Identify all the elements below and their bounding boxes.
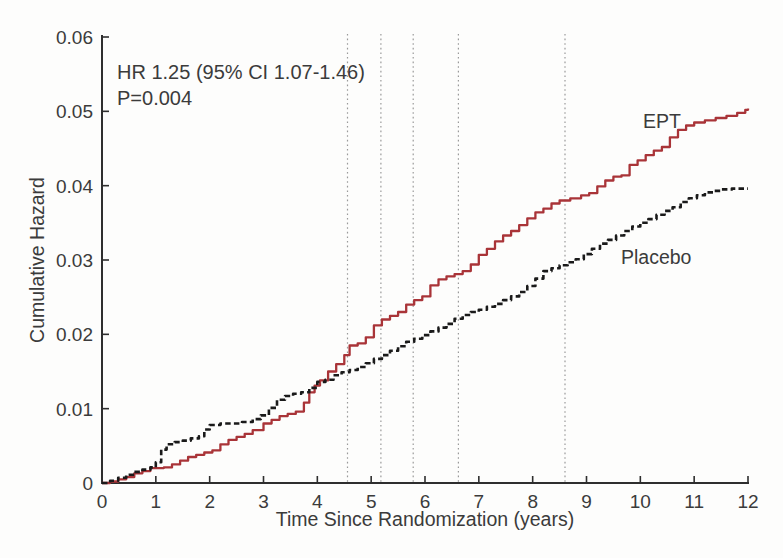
x-tick-label: 10	[630, 491, 651, 512]
y-tick-label: 0.05	[56, 101, 93, 122]
x-tick-label: 1	[151, 491, 162, 512]
placebo-curve	[102, 189, 748, 483]
annotation-p-value: P=0.004	[117, 87, 192, 109]
ept-curve	[102, 108, 748, 483]
annotation-hazard-ratio: HR 1.25 (95% CI 1.07-1.46)	[117, 61, 365, 83]
x-tick-label: 11	[684, 491, 704, 512]
x-tick-label: 3	[258, 491, 269, 512]
y-tick-label: 0.01	[56, 399, 93, 420]
y-tick-label: 0.06	[56, 27, 93, 48]
reference-lines	[348, 34, 566, 483]
cumulative-hazard-figure: 012345678910111200.010.020.030.040.050.0…	[0, 0, 783, 558]
x-tick-label: 9	[581, 491, 592, 512]
curves	[102, 108, 748, 483]
x-tick-label: 2	[204, 491, 215, 512]
y-tick-label: 0.02	[56, 324, 93, 345]
y-tick-label: 0	[82, 473, 93, 494]
x-axis-title: Time Since Randomization (years)	[276, 508, 574, 530]
y-tick-label: 0.04	[56, 176, 93, 197]
ept-curve-label: EPT	[643, 110, 681, 132]
y-tick-label: 0.03	[56, 250, 93, 271]
x-tick-label: 0	[97, 491, 108, 512]
cumulative-hazard-chart: 012345678910111200.010.020.030.040.050.0…	[0, 0, 783, 558]
placebo-curve-label: Placebo	[621, 246, 692, 268]
y-axis-title: Cumulative Hazard	[26, 177, 48, 343]
x-tick-label: 12	[737, 491, 758, 512]
